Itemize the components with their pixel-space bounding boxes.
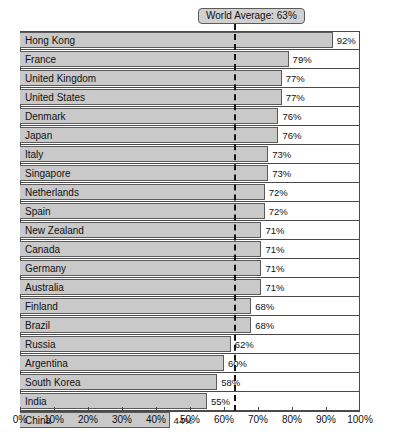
bar-row: France79% — [20, 50, 360, 69]
bar-category-label: India — [25, 392, 47, 411]
world-average-line — [234, 24, 236, 411]
bar-value-label: 62% — [235, 335, 254, 354]
bar-rows: Hong Kong92%France79%United Kingdom77%Un… — [20, 31, 360, 411]
bar-value-label: 55% — [211, 392, 230, 411]
bar-category-label: Spain — [25, 202, 51, 221]
bar-category-label: Hong Kong — [25, 31, 75, 50]
bar-row: Hong Kong92% — [20, 31, 360, 50]
bar-category-label: Germany — [25, 259, 66, 278]
bar-category-label: Canada — [25, 240, 60, 259]
bar-row: Spain72% — [20, 202, 360, 221]
bar-value-label: 73% — [272, 164, 291, 183]
bar-value-label: 71% — [265, 221, 284, 240]
bar-row: Japan76% — [20, 126, 360, 145]
x-axis-tick-label: 90% — [316, 415, 336, 425]
bar-value-label: 71% — [265, 259, 284, 278]
bar-value-label: 68% — [255, 297, 274, 316]
bar-value-label: 71% — [265, 278, 284, 297]
bar-value-label: 60% — [228, 354, 247, 373]
bar-row: Finland68% — [20, 297, 360, 316]
bar-category-label: South Korea — [25, 373, 81, 392]
bar-category-label: United States — [25, 88, 85, 107]
bar — [20, 393, 207, 409]
world-average-callout-label: World Average: 63% — [206, 11, 297, 21]
bar-category-label: Argentina — [25, 354, 68, 373]
x-axis-tick — [88, 407, 89, 412]
bar-row: Brazil68% — [20, 316, 360, 335]
bar-value-label: 76% — [282, 107, 301, 126]
bar-category-label: Denmark — [25, 107, 66, 126]
x-axis-tick-label: 40% — [146, 415, 166, 425]
bar-row: Russia62% — [20, 335, 360, 354]
bar-category-label: Italy — [25, 145, 43, 164]
bar-row: Canada71% — [20, 240, 360, 259]
bar-row: New Zealand71% — [20, 221, 360, 240]
bar-row: South Korea58% — [20, 373, 360, 392]
bar-value-label: 77% — [286, 88, 305, 107]
bar-value-label: 72% — [269, 183, 288, 202]
bar-value-label: 73% — [272, 145, 291, 164]
bar — [20, 51, 289, 67]
bar-category-label: Netherlands — [25, 183, 79, 202]
bar-row: China44% — [20, 411, 360, 430]
world-average-callout: World Average: 63% — [198, 8, 305, 24]
x-axis-tick-label: 20% — [78, 415, 98, 425]
x-axis-tick — [122, 407, 123, 412]
x-axis-tick — [156, 407, 157, 412]
bar-value-label: 68% — [255, 316, 274, 335]
bar-value-label: 58% — [221, 373, 240, 392]
bar-row: United Kingdom77% — [20, 69, 360, 88]
bar-value-label: 79% — [293, 50, 312, 69]
x-axis-tick-label: 100% — [347, 415, 373, 425]
bar-value-label: 92% — [337, 31, 356, 50]
bar-category-label: Finland — [25, 297, 58, 316]
bar-value-label: 76% — [282, 126, 301, 145]
bar-row: Italy73% — [20, 145, 360, 164]
bar-category-label: United Kingdom — [25, 69, 96, 88]
bar — [20, 203, 265, 219]
x-axis-tick — [20, 407, 21, 412]
bar-category-label: Brazil — [25, 316, 50, 335]
bar-category-label: France — [25, 50, 56, 69]
x-axis-tick — [54, 407, 55, 412]
bar-row: Germany71% — [20, 259, 360, 278]
bar — [20, 317, 251, 333]
x-axis-tick — [292, 407, 293, 412]
bar-row: Netherlands72% — [20, 183, 360, 202]
x-axis-tick — [258, 407, 259, 412]
x-axis-tick-label: 30% — [112, 415, 132, 425]
bar-row: United States77% — [20, 88, 360, 107]
bar-value-label: 71% — [265, 240, 284, 259]
bar — [20, 127, 278, 143]
bar-row: Argentina60% — [20, 354, 360, 373]
x-axis-tick-label: 80% — [282, 415, 302, 425]
bar — [20, 146, 268, 162]
x-axis-tick-label: 60% — [214, 415, 234, 425]
x-axis-tick — [326, 407, 327, 412]
bar-category-label: New Zealand — [25, 221, 84, 240]
bar-chart: World Average: 63% Hong Kong92%France79%… — [0, 0, 414, 440]
bar-category-label: Australia — [25, 278, 64, 297]
bar-row: Singapore73% — [20, 164, 360, 183]
bar-category-label: Japan — [25, 126, 52, 145]
bar-category-label: China — [25, 411, 51, 430]
bar-value-label: 72% — [269, 202, 288, 221]
bar-value-label: 44% — [174, 411, 193, 430]
bar-row: Australia71% — [20, 278, 360, 297]
x-axis-tick-label: 70% — [248, 415, 268, 425]
bar-category-label: Singapore — [25, 164, 71, 183]
bar-value-label: 77% — [286, 69, 305, 88]
bar-category-label: Russia — [25, 335, 56, 354]
x-axis-tick — [359, 407, 360, 412]
bar-row: Denmark76% — [20, 107, 360, 126]
